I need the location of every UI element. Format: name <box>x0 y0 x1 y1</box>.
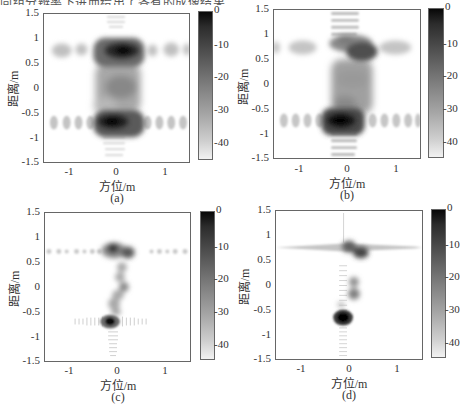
top-caption-cropped: 同组分辨率下进而给出了各有的成像结果…… <box>0 0 466 5</box>
heatmap-plot-area-a <box>43 13 190 163</box>
colorbar-tick-label: -20 <box>443 69 458 81</box>
heatmap-plot-area-c <box>44 212 191 362</box>
ytick-label: 1 <box>243 228 271 240</box>
xtick-label: 1 <box>386 162 406 174</box>
colorbar-tick-label: -10 <box>214 38 229 50</box>
colorbar-tick-label: -10 <box>443 37 458 49</box>
panel-label: (d) <box>334 388 364 403</box>
xtick-label: 0 <box>337 162 357 174</box>
y-axis-label: 距离/m <box>4 59 22 119</box>
colorbar-tick-label: 0 <box>445 0 451 12</box>
ytick-label: 1.5 <box>11 6 39 18</box>
colorbar-tick-label: -40 <box>443 135 458 147</box>
colorbar-tick-label: -10 <box>214 240 229 252</box>
y-axis-label: 距离/m <box>235 257 253 317</box>
ytick-label: -1 <box>11 131 39 143</box>
colorbar-tick-label: -10 <box>445 238 460 250</box>
colorbar-tick-label: -30 <box>214 305 229 317</box>
colorbar <box>431 209 446 358</box>
colorbar-tick-label: -30 <box>445 303 460 315</box>
colorbar-tick-label: -40 <box>214 136 229 148</box>
panel-label: (b) <box>332 188 362 203</box>
ytick-label: -1 <box>243 328 271 340</box>
colorbar-tick-label: -20 <box>214 70 229 82</box>
ytick-label: -1 <box>241 127 269 139</box>
ytick-label: -1 <box>12 330 40 342</box>
colorbar <box>428 8 444 158</box>
colorbar-tick-label: -20 <box>214 272 229 284</box>
ytick-label: 1.5 <box>241 2 269 14</box>
xtick-label: -1 <box>59 364 79 376</box>
xtick-label: 1 <box>155 364 175 376</box>
xtick-label: 0 <box>107 364 127 376</box>
ytick-label: -1.5 <box>243 352 271 364</box>
ytick-label: 1.5 <box>12 205 40 217</box>
xtick-label: -1 <box>291 362 311 374</box>
colorbar-tick-label: 0 <box>216 203 222 215</box>
ytick-label: -1.5 <box>11 155 39 167</box>
xtick-label: -1 <box>59 165 79 177</box>
ytick-label: 1.5 <box>243 203 271 215</box>
colorbar-tick-label: -20 <box>445 270 460 282</box>
y-axis-label: 距离/m <box>234 57 252 117</box>
xtick-label: 0 <box>106 165 126 177</box>
ytick-label: -1.5 <box>12 354 40 366</box>
y-axis-label: 距离/m <box>5 259 23 319</box>
colorbar-tick-label: 0 <box>214 3 220 15</box>
xtick-label: -1 <box>289 162 309 174</box>
colorbar-tick-label: -30 <box>214 103 229 115</box>
xtick-label: 1 <box>387 362 407 374</box>
colorbar-tick-label: 0 <box>447 201 453 213</box>
colorbar <box>198 11 213 160</box>
colorbar-tick-label: -40 <box>214 338 229 350</box>
ytick-label: -1.5 <box>241 151 269 163</box>
ytick-label: 1 <box>12 230 40 242</box>
ytick-label: 1 <box>241 27 269 39</box>
panel-label: (a) <box>102 191 132 206</box>
colorbar-tick-label: -30 <box>443 102 458 114</box>
xtick-label: 1 <box>155 165 175 177</box>
heatmap-plot-area-d <box>275 210 423 360</box>
colorbar <box>200 211 215 360</box>
panel-label: (c) <box>103 390 133 404</box>
colorbar-tick-label: -40 <box>445 336 460 348</box>
xtick-label: 0 <box>339 362 359 374</box>
heatmap-plot-area-b <box>273 9 421 159</box>
ytick-label: 1 <box>11 31 39 43</box>
